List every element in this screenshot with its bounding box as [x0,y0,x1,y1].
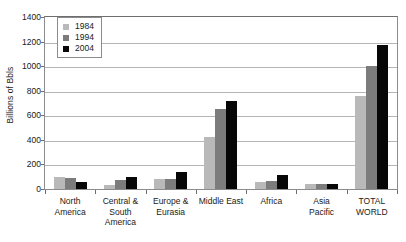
x-axis-tick-label-line: South [95,207,145,218]
x-axis-tick-label: AsiaPacific [296,196,346,228]
bar-chart: Billions of Bbls 02004006008001000120014… [0,0,406,242]
x-axis-tick-label: NorthAmerica [45,196,95,228]
x-axis-tick-mark [146,190,147,194]
x-axis-tick-label-line: Central & [95,196,145,207]
bar-1984 [154,179,165,189]
x-axis-tick-label-line: America [95,217,145,228]
legend: 198419942004 [57,17,102,58]
x-axis-tick-label: Europe &Eurasia [146,196,196,228]
bar-group [146,17,196,189]
bar-2004 [277,175,288,189]
bar-2004 [377,45,388,189]
bar-2004 [327,184,338,189]
x-axis-tick-label-line: America [45,207,95,218]
bar-2004 [226,101,237,189]
legend-item-label: 2004 [75,44,94,53]
bar-1994 [165,179,176,189]
legend-item-label: 1994 [75,33,94,42]
bar-1994 [266,181,277,189]
x-axis-tick-marks [45,190,397,194]
bar-1984 [255,182,266,189]
legend-item: 2004 [63,43,94,54]
x-axis-tick-label-line: TOTAL [347,196,397,207]
x-axis-tick-mark [347,190,348,194]
x-axis-tick-label: TOTALWORLD [347,196,397,228]
x-axis-tick-labels: NorthAmericaCentral &SouthAmericaEurope … [45,196,397,228]
legend-swatch-icon [63,46,69,52]
x-axis-tick-label: Africa [246,196,296,228]
bar-1994 [316,184,327,189]
bar-group [95,17,145,189]
x-axis-tick-label-line: Eurasia [146,207,196,218]
y-axis-tick-marks [0,16,44,190]
x-axis-tick-mark [45,190,46,194]
bar-1994 [366,66,377,189]
bar-1984 [355,96,366,189]
bar-1984 [204,137,215,189]
bar-2004 [176,172,187,189]
bar-1984 [54,177,65,189]
x-axis-tick-mark [246,190,247,194]
bar-group [296,17,346,189]
x-axis-tick-label-line: North [45,196,95,207]
x-axis-tick-label: Middle East [196,196,246,228]
bar-2004 [76,182,87,189]
x-axis-tick-mark [95,190,96,194]
x-axis-tick-mark [397,190,398,194]
legend-swatch-icon [63,24,69,30]
x-axis-tick-label-line: Pacific [296,207,346,218]
x-axis-tick-label-line: Middle East [196,196,246,207]
bar-1984 [305,184,316,189]
bar-group [196,17,246,189]
legend-item: 1984 [63,21,94,32]
x-axis-tick-label-line: Africa [246,196,296,207]
legend-item: 1994 [63,32,94,43]
bar-2004 [126,177,137,189]
x-axis-tick-mark [296,190,297,194]
x-axis-tick-label-line: Asia [296,196,346,207]
bar-1984 [104,185,115,189]
x-axis-tick-label: Central &SouthAmerica [95,196,145,228]
legend-item-label: 1984 [75,22,94,31]
legend-swatch-icon [63,35,69,41]
x-axis-tick-label-line: Europe & [146,196,196,207]
bar-group [347,17,397,189]
bar-1994 [215,109,226,189]
x-axis-tick-label-line: WORLD [347,207,397,218]
bar-1994 [65,178,76,189]
x-axis-tick-mark [196,190,197,194]
bar-group [246,17,296,189]
bar-1994 [115,180,126,189]
